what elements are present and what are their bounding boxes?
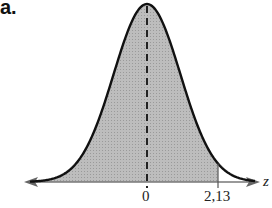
- normal-curve-figure: [0, 0, 272, 208]
- tick-label-zero: 0: [142, 188, 150, 205]
- axis-variable-label: z: [263, 173, 269, 190]
- shaded-area: [30, 4, 218, 182]
- tick-label-bound: 2,13: [204, 188, 230, 205]
